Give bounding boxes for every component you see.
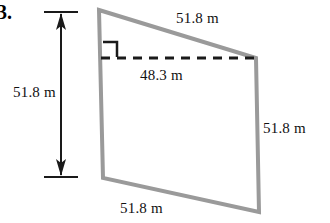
label-bottom-side: 51.8 m [120,201,163,216]
label-diagonal: 48.3 m [140,68,183,83]
label-top-side: 51.8 m [176,11,219,26]
geometry-figure: 3. 51.8 m 51.8 m 48.3 m 51.8 m 51.8 m [0,0,330,223]
quadrilateral-outline [99,10,259,212]
figure-drawing [0,0,330,223]
label-right-side: 51.8 m [263,121,306,136]
right-angle-marker-icon [103,42,117,57]
label-left-height: 51.8 m [13,85,56,100]
